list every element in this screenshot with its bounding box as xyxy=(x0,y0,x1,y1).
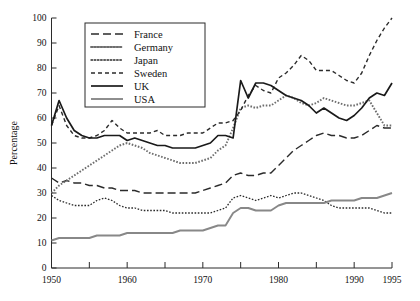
x-axis-tick-label: 1995 xyxy=(383,275,402,285)
y-axis-tick-label: 100 xyxy=(32,13,47,23)
y-axis-tick-label: 40 xyxy=(37,163,47,173)
x-axis-tick-label: 1980 xyxy=(269,275,288,285)
x-axis-tick-label: 1950 xyxy=(42,275,61,285)
y-axis-tick-label: 70 xyxy=(37,88,47,98)
legend-label-france[interactable]: France xyxy=(134,29,163,40)
line-chart: 0102030405060708090100195019601970198019… xyxy=(0,0,420,301)
y-axis-tick-label: 90 xyxy=(37,38,47,48)
x-axis-tick-label: 1990 xyxy=(345,275,364,285)
x-axis-tick-label: 1970 xyxy=(193,275,212,285)
legend-label-germany[interactable]: Germany xyxy=(134,42,174,53)
legend-label-uk[interactable]: UK xyxy=(134,81,150,92)
chart-svg: 0102030405060708090100195019601970198019… xyxy=(0,0,420,301)
legend-label-japan[interactable]: Japan xyxy=(134,55,159,66)
y-axis-tick-label: 0 xyxy=(42,263,47,273)
x-axis-tick-label: 1960 xyxy=(118,275,137,285)
chart-legend[interactable]: FranceGermanyJapanSwedenUKUSA xyxy=(85,23,205,107)
series-line-japan xyxy=(52,193,393,213)
y-axis-tick-label: 80 xyxy=(37,63,47,73)
y-axis-title: Percentage xyxy=(8,121,19,165)
series-line-germany xyxy=(52,96,393,194)
y-axis-tick-label: 30 xyxy=(37,188,47,198)
series-line-usa xyxy=(52,193,393,241)
legend-label-sweden[interactable]: Sweden xyxy=(134,68,168,79)
legend-label-usa[interactable]: USA xyxy=(134,94,155,105)
y-axis-tick-label: 60 xyxy=(37,113,47,123)
y-axis-tick-label: 20 xyxy=(37,213,47,223)
y-axis-tick-label: 10 xyxy=(37,238,47,248)
y-axis-tick-label: 50 xyxy=(37,138,47,148)
